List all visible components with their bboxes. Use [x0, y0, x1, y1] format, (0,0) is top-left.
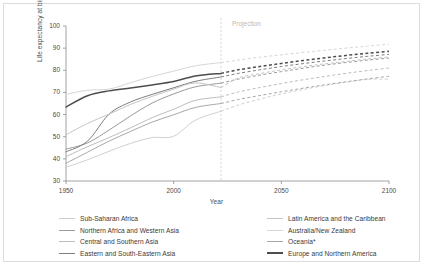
y-tick-label: 80: [42, 66, 60, 73]
legend-item[interactable]: Central and Southern Asia: [59, 236, 179, 248]
chart-frame: Life expectancy at birth (years) Year Pr…: [3, 3, 420, 262]
legend-color-swatch: [267, 241, 283, 242]
legend-color-swatch: [59, 218, 75, 219]
legend-item[interactable]: Sub-Saharan Africa: [59, 213, 179, 225]
legend-item[interactable]: Eastern and South-Eastern Asia: [59, 248, 179, 260]
series-line-projection: [221, 51, 389, 73]
y-tick-label: 30: [42, 177, 60, 184]
series-line-projection: [221, 54, 389, 77]
legend-item-label: Europe and Northern America: [288, 250, 377, 257]
legend-color-swatch: [267, 230, 283, 231]
series-line-solid: [66, 104, 221, 164]
legend-item-label: Central and Southern Asia: [80, 238, 158, 245]
y-tick-label: 50: [42, 133, 60, 140]
legend-item-label: Sub-Saharan Africa: [80, 215, 138, 222]
x-tick-label: 2050: [261, 187, 301, 194]
figure: Life expectancy at birth (years) Year Pr…: [4, 4, 419, 261]
legend-column-left: Sub-Saharan AfricaNorthern Africa and We…: [59, 213, 179, 259]
legend-color-swatch: [267, 252, 283, 254]
legend-color-swatch: [59, 230, 75, 231]
legend: Sub-Saharan AfricaNorthern Africa and We…: [4, 213, 425, 265]
series-line-solid: [66, 83, 221, 135]
x-tick-label: 1950: [46, 187, 86, 194]
legend-color-swatch: [59, 253, 75, 254]
legend-item-label: Northern Africa and Western Asia: [80, 227, 179, 234]
legend-color-swatch: [59, 241, 75, 242]
series-line-projection: [221, 68, 389, 97]
legend-item-label: Latin America and the Caribbean: [288, 215, 386, 222]
legend-item[interactable]: Australia/New Zealand: [267, 225, 386, 237]
y-tick-label: 90: [42, 44, 60, 51]
series-line-solid: [66, 77, 221, 152]
series-line-solid: [66, 97, 221, 157]
series-line-projection: [221, 76, 389, 103]
series-line-projection: [221, 57, 389, 88]
legend-item-label: Oceania*: [288, 238, 316, 245]
y-tick-label: 100: [42, 22, 60, 29]
y-tick-label: 70: [42, 88, 60, 95]
y-tick-label: 60: [42, 111, 60, 118]
legend-item-label: Eastern and South-Eastern Asia: [80, 250, 175, 257]
x-tick-label: 2000: [154, 187, 194, 194]
legend-color-swatch: [267, 218, 283, 219]
y-tick-label: 40: [42, 155, 60, 162]
x-tick-label: 2100: [369, 187, 409, 194]
legend-item[interactable]: Europe and Northern America: [267, 248, 386, 260]
legend-item[interactable]: Northern Africa and Western Asia: [59, 225, 179, 237]
series-line-solid: [66, 63, 221, 95]
legend-column-right: Latin America and the CaribbeanAustralia…: [267, 213, 386, 259]
legend-item[interactable]: Oceania*: [267, 236, 386, 248]
legend-item-label: Australia/New Zealand: [288, 227, 355, 234]
series-line-projection: [221, 79, 389, 111]
legend-item[interactable]: Latin America and the Caribbean: [267, 213, 386, 225]
